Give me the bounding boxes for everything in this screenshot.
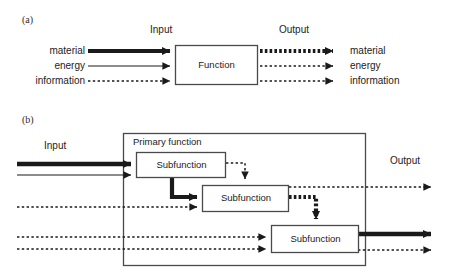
subfunction-label-1: Subfunction: [137, 160, 226, 170]
subfunction-label-3: Subfunction: [272, 234, 359, 244]
panel-a-input-label-energy: energy: [0, 60, 85, 71]
diagram-canvas: [0, 0, 449, 274]
flow-b-internal-thick-1: [172, 177, 197, 197]
panel-a-output-label-information: information: [350, 75, 399, 86]
panel-a-output-label-energy: energy: [350, 60, 381, 71]
panel-a-output-heading: Output: [279, 24, 309, 35]
panel-a-input-heading: Input: [150, 24, 172, 35]
panel-a-id: (a): [22, 14, 33, 25]
panel-b-output-heading: Output: [390, 155, 420, 166]
panel-a-input-label-material: material: [0, 45, 85, 56]
flow-b-internal-dotted-1: [226, 163, 245, 179]
subfunction-label-2: Subfunction: [203, 193, 289, 203]
function-box-label: Function: [175, 60, 258, 70]
panel-a-output-label-material: material: [350, 45, 386, 56]
figure-root: (a) Input Output material energy informa…: [0, 0, 449, 274]
flow-b-internal-thick-dotted: [289, 197, 316, 219]
panel-a-input-label-information: information: [0, 75, 85, 86]
panel-b-id: (b): [22, 114, 34, 125]
panel-b-input-heading: Input: [44, 140, 66, 151]
primary-function-label: Primary function: [133, 137, 202, 147]
